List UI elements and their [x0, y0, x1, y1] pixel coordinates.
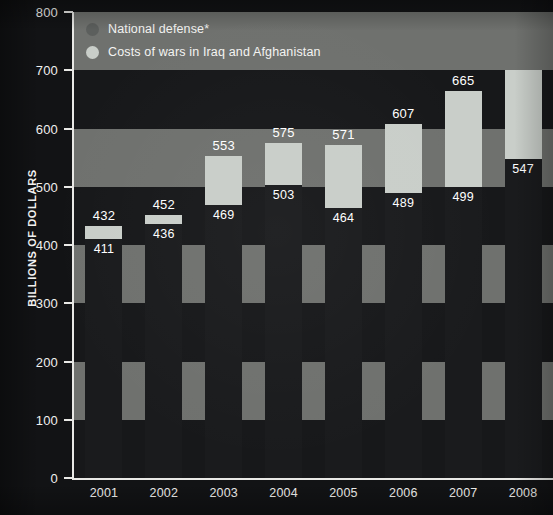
bar-segment-national-defense-2008	[505, 159, 542, 478]
bar-segment-national-defense-2004	[265, 185, 302, 478]
bar-segment-war-costs-2001	[85, 226, 122, 238]
legend-swatch-defense-icon	[86, 23, 99, 36]
y-axis-tick-label: 400	[0, 238, 58, 253]
legend-item-national-defense[interactable]: National defense*	[86, 22, 209, 36]
data-label-defense-2005: 464	[313, 211, 373, 225]
data-label-defense-2003: 469	[194, 208, 254, 222]
y-axis-tick	[64, 186, 73, 188]
data-label-total-2002: 452	[134, 197, 194, 212]
bar-group-2006[interactable]	[385, 12, 422, 478]
data-label-defense-2001: 411	[74, 242, 134, 256]
bar-segment-national-defense-2002	[145, 224, 182, 478]
y-axis-tick	[64, 69, 73, 71]
legend-swatch-war-icon	[86, 46, 99, 59]
data-label-defense-2006: 489	[373, 196, 433, 210]
data-label-total-2004: 575	[254, 125, 314, 140]
x-axis-label-2004: 2004	[254, 486, 314, 500]
x-axis-label-2006: 2006	[373, 486, 433, 500]
legend: National defense* Costs of wars in Iraq …	[74, 12, 553, 70]
data-label-total-2006: 607	[373, 106, 433, 121]
legend-label-war-costs: Costs of wars in Iraq and Afghanistan	[108, 45, 321, 59]
y-axis-tick	[64, 244, 73, 246]
bar-group-2003[interactable]	[205, 12, 242, 478]
bar-segment-war-costs-2006	[385, 124, 422, 193]
bar-segment-war-costs-2004	[265, 143, 302, 185]
legend-label-national-defense: National defense*	[108, 22, 209, 36]
y-axis-tick	[64, 11, 73, 13]
y-axis-tick	[64, 128, 73, 130]
bar-group-2004[interactable]	[265, 12, 302, 478]
y-axis-tick	[64, 302, 73, 304]
y-axis-tick	[64, 419, 73, 421]
y-axis-tick-label: 0	[0, 471, 58, 486]
x-axis-label-2005: 2005	[313, 486, 373, 500]
y-axis-tick-label: 700	[0, 63, 58, 78]
y-axis-tick-label: 200	[0, 354, 58, 369]
y-axis-tick-label: 800	[0, 5, 58, 20]
x-axis-line	[72, 478, 553, 480]
data-label-defense-2008: 547	[493, 162, 553, 176]
bar-segment-national-defense-2005	[325, 208, 362, 478]
data-label-total-2007: 665	[433, 73, 493, 88]
bar-segment-national-defense-2003	[205, 205, 242, 478]
bar-group-2002[interactable]	[145, 12, 182, 478]
y-axis-tick	[64, 477, 73, 479]
x-axis-label-2007: 2007	[433, 486, 493, 500]
data-label-total-2005: 571	[313, 127, 373, 142]
bar-segment-war-costs-2007	[445, 91, 482, 188]
y-axis-tick-label: 600	[0, 121, 58, 136]
bar-segment-national-defense-2007	[445, 187, 482, 478]
bar-segment-war-costs-2002	[145, 215, 182, 224]
data-label-total-2003: 553	[194, 138, 254, 153]
bar-segment-war-costs-2008	[505, 58, 542, 159]
data-label-defense-2004: 503	[254, 188, 314, 202]
y-axis-tick-label: 500	[0, 179, 58, 194]
legend-item-war-costs[interactable]: Costs of wars in Iraq and Afghanistan	[86, 45, 321, 59]
data-label-defense-2002: 436	[134, 227, 194, 241]
x-axis-label-2008: 2008	[493, 486, 553, 500]
data-label-total-2001: 432	[74, 208, 134, 223]
y-axis-tick	[64, 361, 73, 363]
x-axis-label-2003: 2003	[194, 486, 254, 500]
y-axis-tick-label: 100	[0, 412, 58, 427]
data-label-defense-2007: 499	[433, 190, 493, 204]
x-axis-label-2001: 2001	[74, 486, 134, 500]
y-axis-tick-label: 300	[0, 296, 58, 311]
x-axis-label-2002: 2002	[134, 486, 194, 500]
bar-group-2005[interactable]	[325, 12, 362, 478]
bar-segment-war-costs-2005	[325, 145, 362, 207]
bar-segment-national-defense-2006	[385, 193, 422, 478]
chart-container: BILLIONS OF DOLLARS 01002003004005006007…	[0, 0, 553, 515]
bar-segment-war-costs-2003	[205, 156, 242, 205]
bar-segment-national-defense-2001	[85, 239, 122, 478]
bar-group-2008[interactable]	[505, 12, 542, 478]
